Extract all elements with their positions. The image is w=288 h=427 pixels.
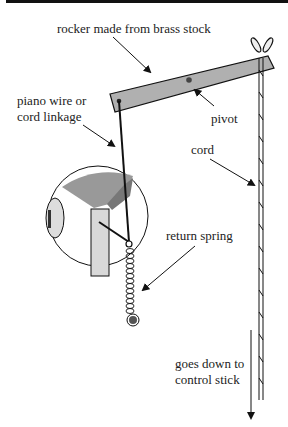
linkage-arrow	[83, 125, 114, 146]
cord-label: cord	[191, 142, 214, 158]
rocker-bar	[110, 56, 274, 112]
pivot-arrow	[195, 90, 214, 106]
linkage-diagram	[0, 0, 288, 427]
linkage-label-line2: cord linkage	[17, 109, 82, 125]
cord-clip-icon	[249, 37, 274, 54]
return-spring-label: return spring	[166, 228, 233, 244]
return-spring	[126, 249, 134, 314]
pivot-dot	[186, 77, 192, 83]
servo-body	[91, 209, 109, 276]
rocker-label: rocker made from brass stock	[57, 21, 211, 37]
spring-arrow	[143, 246, 195, 290]
linkage-label-line1: piano wire or	[17, 93, 86, 109]
pivot-label: pivot	[211, 111, 238, 127]
goes-down-label-line2: control stick	[175, 372, 240, 388]
cord-arrow	[210, 159, 254, 185]
goes-down-label-line1: goes down to	[175, 356, 244, 372]
cord-line	[259, 58, 263, 400]
rocker-arrow	[113, 37, 150, 72]
